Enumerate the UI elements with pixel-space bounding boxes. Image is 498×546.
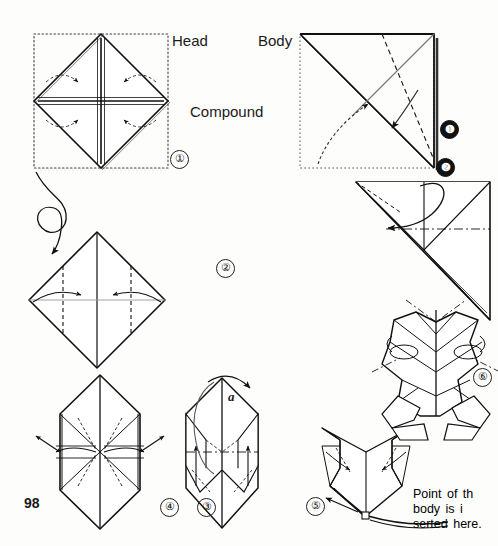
- insertion-note: Point of th body is i serted here.: [413, 487, 498, 532]
- body-step-marker-1: ❶: [440, 120, 459, 139]
- step-1-figure: [34, 34, 170, 170]
- insertion-note-line-3: serted here.: [413, 517, 498, 532]
- step-marker-2: ②: [216, 259, 235, 278]
- step-marker-6: ⑥: [473, 368, 492, 387]
- step-marker-1: ①: [170, 150, 189, 169]
- label-body: Body: [258, 32, 292, 49]
- step-marker-5: ⑤: [306, 497, 325, 516]
- step-3-figure: [36, 375, 164, 529]
- insertion-note-line-2: body is i: [413, 502, 498, 517]
- origami-instruction-page: Head Body Compound a 98 Point of th body…: [0, 0, 498, 546]
- body-step-marker-2: ❷: [436, 158, 455, 177]
- step-marker-3: ③: [197, 498, 216, 517]
- page-number: 98: [24, 495, 40, 511]
- insertion-note-line-1: Point of th: [413, 487, 498, 502]
- body-step-2-figure: [356, 182, 490, 320]
- step-1-cross-crease: [38, 38, 164, 164]
- diagram-artwork: [0, 0, 498, 546]
- body-step-1-figure: [300, 34, 437, 170]
- body-secondary-diagonal: [352, 34, 434, 116]
- step-2-figure: [29, 232, 165, 368]
- label-point-a: a: [228, 389, 235, 405]
- step-1-to-2-loop-arrow: [36, 172, 66, 254]
- step-marker-4: ④: [160, 498, 179, 517]
- label-head: Head: [172, 32, 208, 49]
- label-compound: Compound: [190, 103, 263, 120]
- body-main-diagonal-shadow: [302, 37, 432, 167]
